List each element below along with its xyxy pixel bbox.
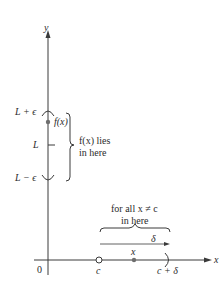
delta-arrow-head-icon	[164, 242, 170, 246]
c-plus-delta-label: c + δ	[157, 265, 178, 276]
x-axis-arrow-icon	[204, 258, 212, 263]
y-axis-label: y	[44, 22, 48, 33]
y-brace-text-line1: f(x) lies	[79, 135, 110, 146]
x-point-label: x	[131, 246, 135, 257]
x-brace-text-line1: for all x ≠ c	[111, 203, 158, 214]
epsilon-delta-diagram: y x 0 L + ϵ f(x) L L − ϵ f(x) lies in he…	[0, 0, 222, 291]
c-label: c	[96, 265, 100, 276]
x-point	[132, 258, 136, 262]
center-label: L	[33, 139, 39, 150]
c-open-point	[96, 257, 102, 263]
fx-point	[46, 120, 50, 124]
origin-label: 0	[37, 264, 42, 275]
delta-label: δ	[151, 233, 156, 244]
fx-label: f(x)	[54, 116, 68, 127]
x-axis-label: x	[214, 254, 218, 265]
y-brace-text-line2: in here	[79, 147, 107, 158]
upper-bound-label: L + ϵ	[15, 106, 36, 117]
x-brace-text-line2: in here	[121, 215, 149, 226]
lower-bound-label: L − ϵ	[15, 172, 36, 183]
